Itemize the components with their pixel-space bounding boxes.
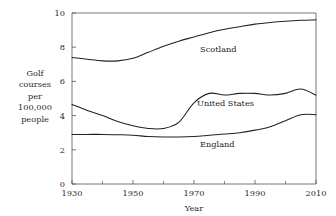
y-tick-label-6: 6: [60, 76, 65, 86]
y-tick-label-2: 2: [60, 145, 65, 155]
y-tick-label-8: 8: [60, 42, 65, 52]
line-chart: 0246810 19301950197019902010 ScotlandUni…: [0, 0, 336, 216]
x-tick-label-1970: 1970: [184, 188, 205, 198]
series-label-england: England: [200, 139, 235, 149]
series-line-scotland: [72, 20, 316, 61]
x-tick-label-1990: 1990: [245, 188, 266, 198]
y-tick-labels: 0246810: [55, 8, 65, 189]
axes: [72, 13, 316, 184]
y-tick-label-10: 10: [55, 8, 65, 18]
x-tick-label-1950: 1950: [123, 188, 144, 198]
tick-marks: [72, 13, 316, 184]
x-axis-title: Year: [184, 203, 203, 213]
series-label-united-states: United States: [197, 98, 254, 108]
plot-frame: [72, 13, 316, 184]
x-tick-label-1930: 1930: [62, 188, 83, 198]
x-tick-labels: 19301950197019902010: [62, 188, 327, 198]
chart-page: Golf courses per 100,000 people 0246810 …: [0, 0, 336, 216]
series-labels: ScotlandUnited StatesEngland: [197, 44, 254, 149]
series-lines: [72, 20, 316, 137]
x-tick-label-2010: 2010: [306, 188, 327, 198]
y-tick-label-4: 4: [60, 111, 65, 121]
series-label-scotland: Scotland: [200, 44, 236, 54]
